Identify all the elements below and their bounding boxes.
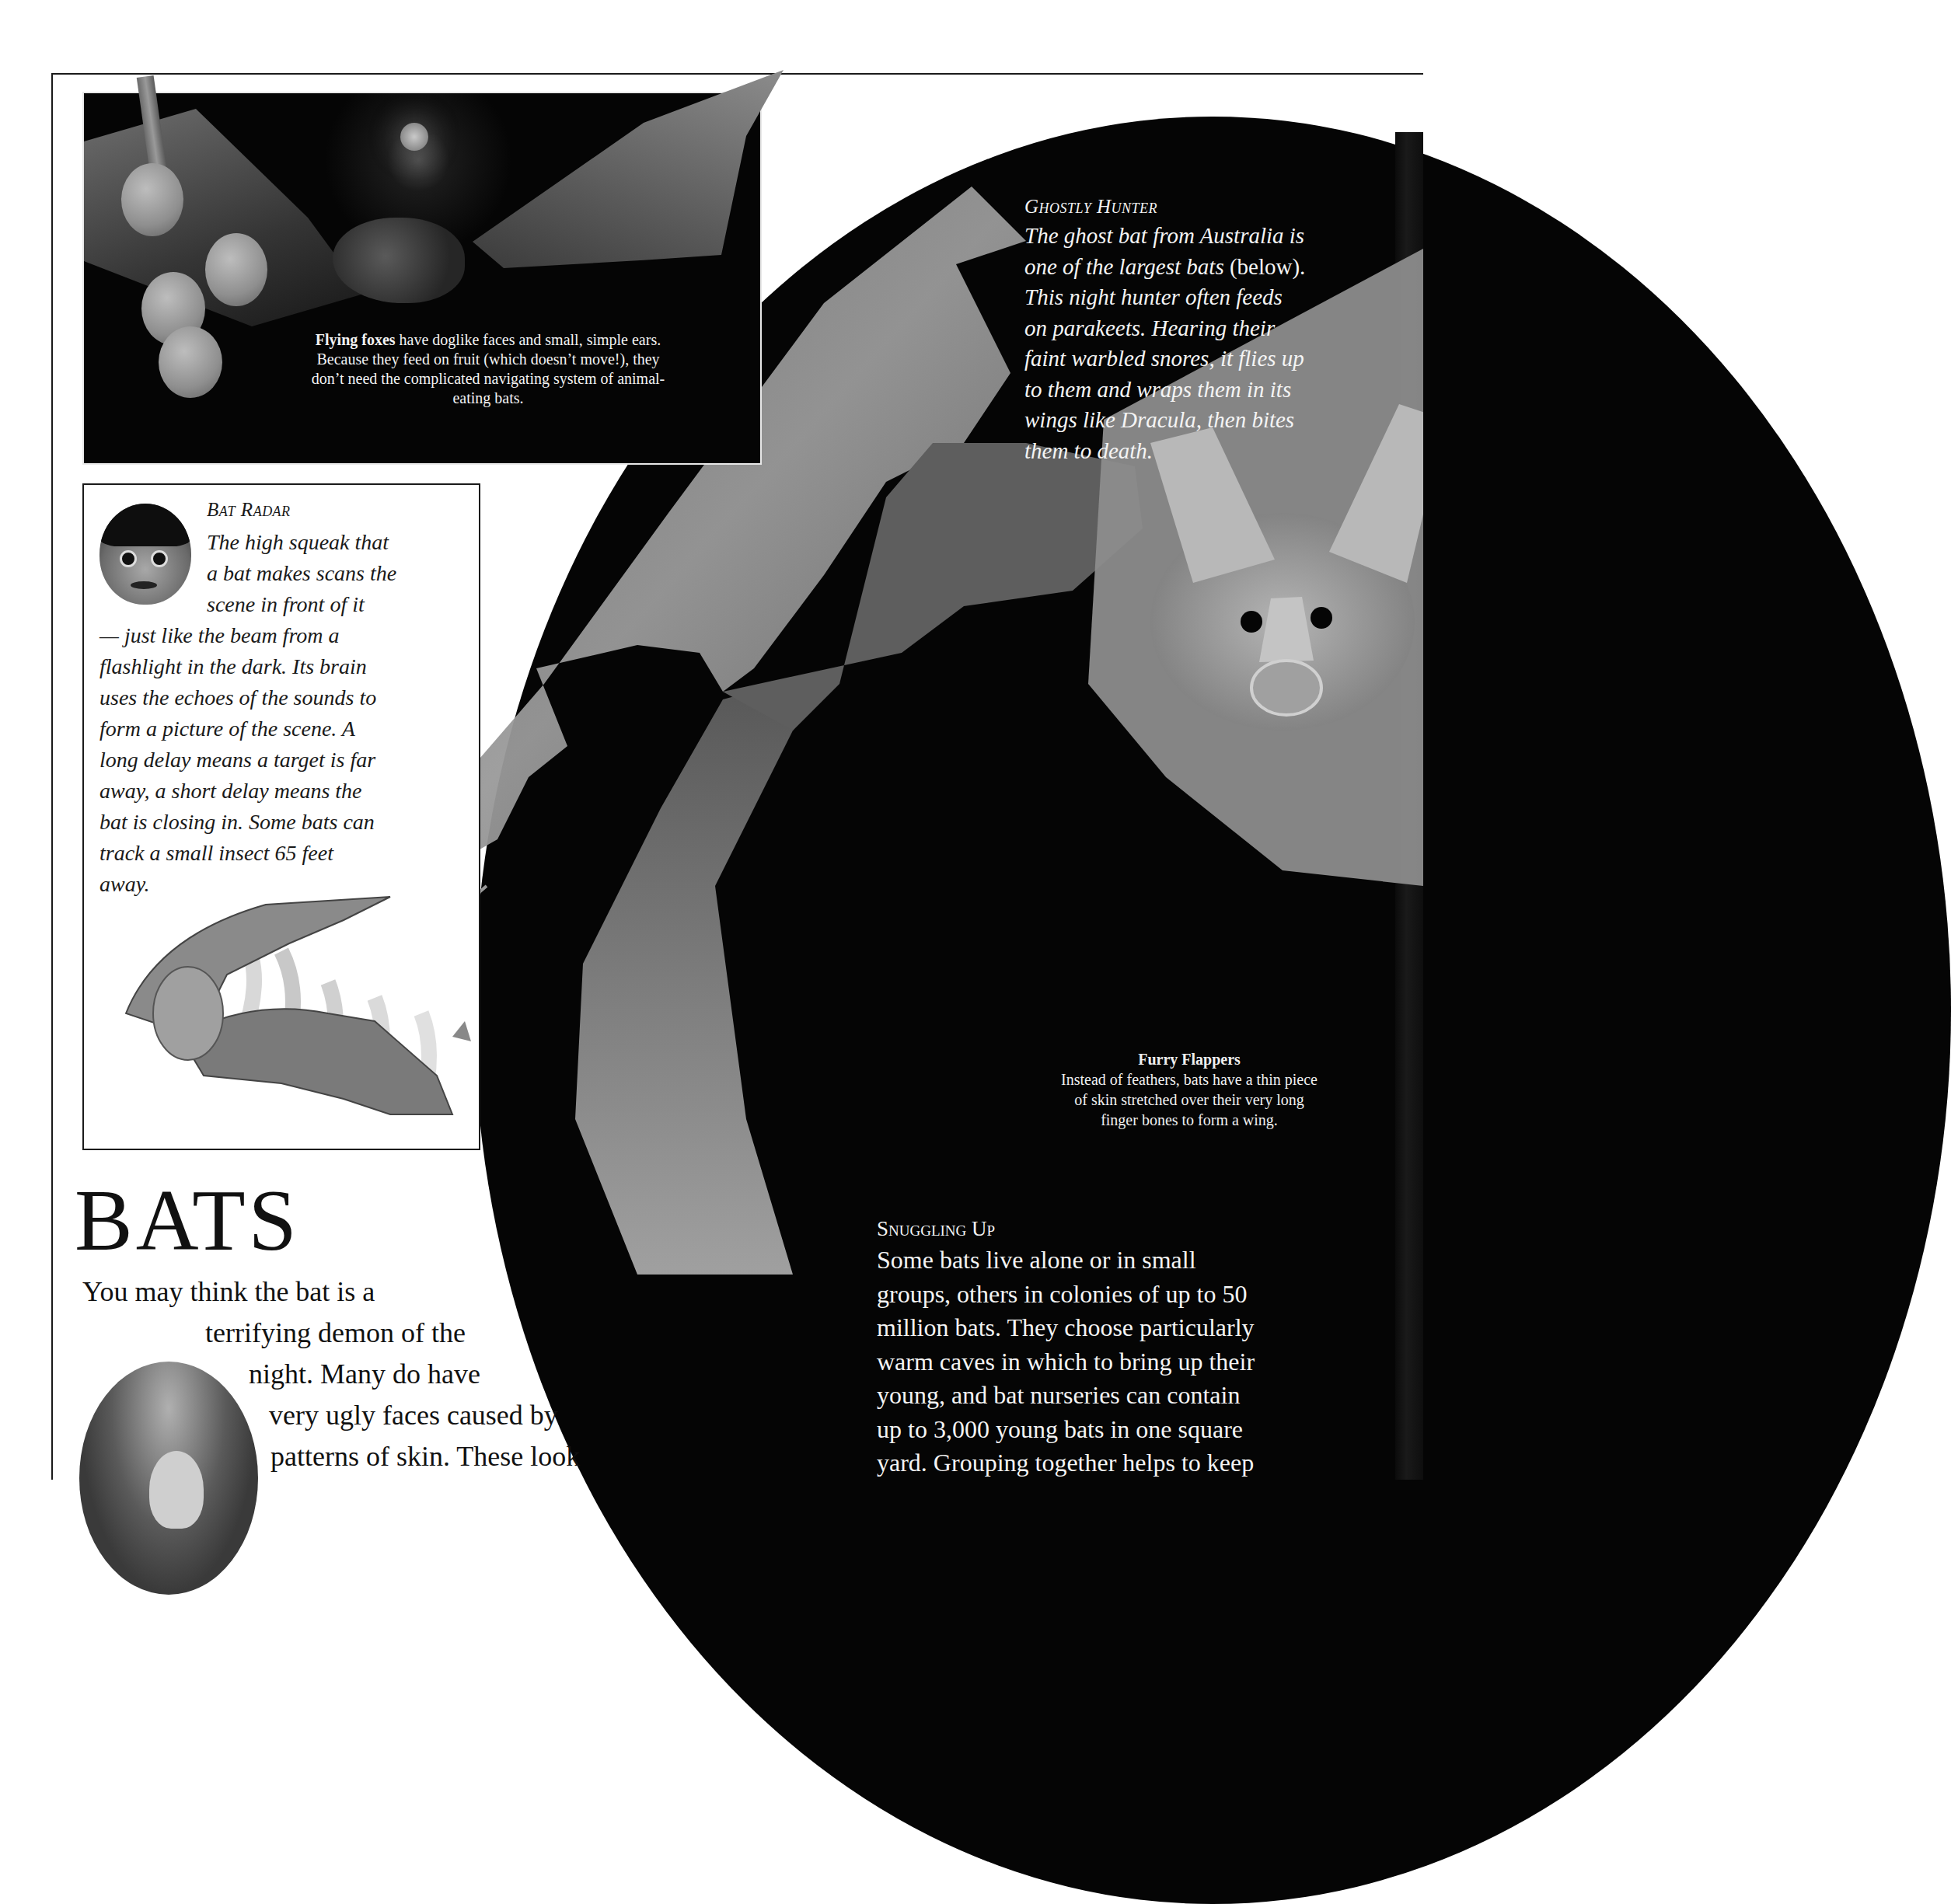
ghostly-hunter-line-roman: (below). [1230,254,1305,279]
bat-radar-line: away, a short delay means the [99,776,457,807]
ghostly-hunter-line-italic: faint warbled snores, it flies up [1024,346,1304,371]
intro-paragraph: You may think the bat is a terrifying de… [82,1271,704,1477]
furry-flappers-line: finger bones to form a wing. [1018,1110,1360,1130]
ghostly-hunter-line: faint warbled snores, it flies up [1024,343,1382,375]
ghostly-hunter-line-italic: to them and wraps them in its [1024,377,1291,402]
bat-radar-line: long delay means a target is far [99,745,457,776]
intro-line: terrifying demon of the [82,1313,704,1354]
intro-line: very ugly faces caused by [82,1395,704,1436]
ghostly-hunter-line-italic: one of the largest bats [1024,254,1230,279]
snuggling-up-line: million bats. They choose particularly [877,1311,1359,1345]
fruit-art [121,163,183,236]
ghostly-hunter-line: wings like Dracula, then bites [1024,405,1382,436]
ghostly-hunter-title: Ghostly Hunter [1024,196,1157,218]
snuggling-up-text: Some bats live alone or in small groups,… [877,1243,1359,1480]
page-top-rule [51,73,1423,75]
snuggling-up-line: yard. Grouping together helps to keep [877,1446,1359,1480]
bat-radar-title: Bat Radar [207,499,291,521]
bat-radar-line: track a small insect 65 feet [99,838,457,869]
intro-line: You may think the bat is a [82,1271,704,1313]
bat-radar-line: — just like the beam from a [99,620,457,651]
ghostly-hunter-line: one of the largest bats (below). [1024,252,1382,283]
ghostly-hunter-line: The ghost bat from Australia is [1024,221,1382,252]
furry-flappers-line: Instead of feathers, bats have a thin pi… [1018,1069,1360,1090]
page-left-rule [51,73,53,1480]
fruit-art [205,233,267,306]
ghostly-hunter-line-italic: wings like Dracula, then bites [1024,407,1294,432]
ghostly-hunter-line-italic: them to death. [1024,438,1153,463]
ghostly-hunter-text: The ghost bat from Australia is one of t… [1024,221,1382,466]
flying-fox-caption: Flying foxes have doglike faces and smal… [309,330,667,408]
intro-line: patterns of skin. These look [82,1436,704,1477]
bat-radar-text: The high squeak that a bat makes scans t… [99,527,457,900]
furry-flappers-line: of skin stretched over their very long [1018,1090,1360,1110]
furry-flappers-caption: Furry Flappers Instead of feathers, bats… [1018,1049,1360,1130]
bat-radar-line: The high squeak that [99,527,457,558]
bat-radar-line: form a picture of the scene. A [99,713,457,745]
fox-right-wing-art [473,70,784,334]
bat-radar-line: a bat makes scans the [99,558,457,589]
ghostly-hunter-line: to them and wraps them in its [1024,375,1382,406]
intro-line: night. Many do have [82,1354,704,1395]
ghostly-hunter-line: on parakeets. Hearing their [1024,313,1382,344]
bat-radar-line: bat is closing in. Some bats can [99,807,457,838]
snuggling-up-line: young, and bat nurseries can contain [877,1379,1359,1413]
snuggling-up-line: up to 3,000 young bats in one square [877,1413,1359,1447]
page-title: BATS [75,1173,300,1267]
bat-radar-line: flashlight in the dark. Its brain [99,651,457,682]
furry-flappers-title: Furry Flappers [1018,1049,1360,1069]
snuggling-up-line: warm caves in which to bring up their [877,1345,1359,1379]
bat-radar-line: scene in front of it [99,589,457,620]
ghostly-hunter-line: them to death. [1024,436,1382,467]
fruit-art [159,326,222,398]
snuggling-up-line: groups, others in colonies of up to 50 [877,1278,1359,1312]
snuggling-up-title: Snuggling Up [877,1217,995,1241]
ghostly-hunter-line-italic: The ghost bat from Australia is [1024,223,1304,248]
moon-icon [400,123,428,151]
bat-radar-sidebar: Bat Radar The high squeak that a bat mak… [82,483,480,1150]
snuggling-up-line: Some bats live alone or in small [877,1243,1359,1278]
ghostly-hunter-line: This night hunter often feeds [1024,282,1382,313]
ghostly-hunter-line-italic: on parakeets. Hearing their [1024,316,1275,340]
bat-radar-line: uses the echoes of the sounds to [99,682,457,713]
echolocating-bat-illustration [110,881,476,1130]
flying-fox-panel: Flying foxes have doglike faces and smal… [82,92,762,465]
ghostly-hunter-line-italic: This night hunter often feeds [1024,284,1283,309]
flying-fox-caption-lead: Flying foxes [316,331,396,348]
